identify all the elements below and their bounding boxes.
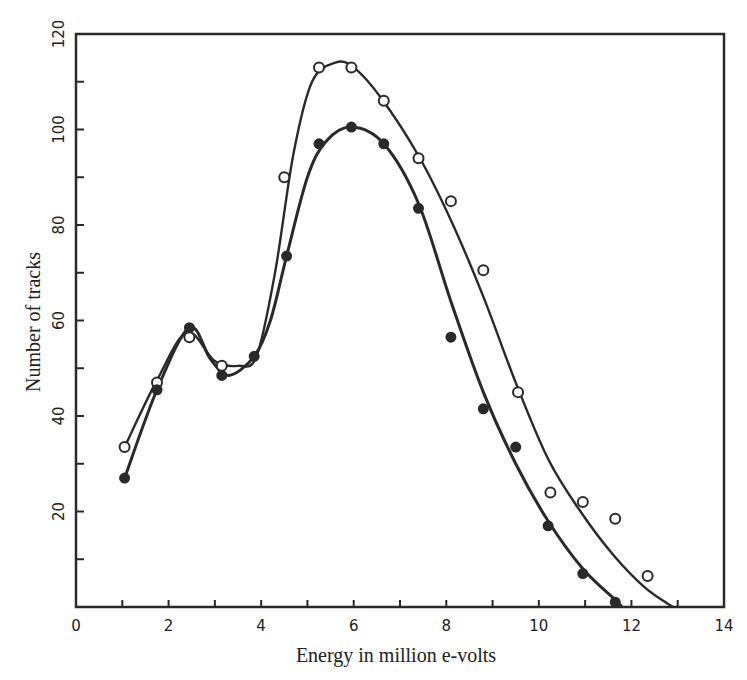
open-circle-point bbox=[610, 514, 620, 524]
y-tick-label: 60 bbox=[50, 311, 68, 330]
filled-circle-point bbox=[446, 333, 455, 342]
open-circle-point bbox=[346, 62, 356, 72]
filled-series-curve bbox=[125, 127, 623, 607]
open-circle-point bbox=[279, 172, 289, 182]
open-circle-point bbox=[184, 332, 194, 342]
x-tick-label: 12 bbox=[622, 617, 641, 635]
filled-circle-point bbox=[185, 323, 194, 332]
open-circle-point bbox=[578, 497, 588, 507]
x-tick-label: 8 bbox=[442, 617, 452, 635]
open-circle-point bbox=[545, 487, 555, 497]
x-tick-label: 0 bbox=[71, 617, 81, 635]
open-circle-point bbox=[414, 153, 424, 163]
open-circle-point bbox=[446, 196, 456, 206]
filled-circle-point bbox=[315, 139, 324, 148]
filled-circle-point bbox=[282, 252, 291, 261]
y-axis-ticks: 20406080100120 bbox=[50, 20, 84, 560]
open-series-curve bbox=[125, 61, 673, 607]
filled-circle-point bbox=[511, 443, 520, 452]
y-tick-label: 40 bbox=[50, 406, 68, 425]
filled-circle-point bbox=[347, 123, 356, 132]
open-circle-point bbox=[379, 96, 389, 106]
x-tick-label: 14 bbox=[714, 617, 733, 635]
filled-circle-point bbox=[379, 139, 388, 148]
x-tick-label: 6 bbox=[349, 617, 359, 635]
y-tick-label: 120 bbox=[50, 20, 68, 49]
chart: 02468101214 20406080100120 Energy in mil… bbox=[0, 0, 747, 680]
y-tick-label: 80 bbox=[50, 215, 68, 234]
x-tick-label: 10 bbox=[529, 617, 548, 635]
fitted-curves bbox=[125, 61, 673, 607]
filled-circle-point bbox=[479, 404, 488, 413]
open-circle-point bbox=[643, 571, 653, 581]
filled-circle-point bbox=[120, 474, 129, 483]
x-tick-label: 2 bbox=[164, 617, 174, 635]
filled-circle-point bbox=[414, 204, 423, 213]
filled-circle-point bbox=[250, 352, 259, 361]
y-tick-label: 20 bbox=[50, 502, 68, 521]
filled-circle-point bbox=[217, 371, 226, 380]
open-circle-point bbox=[314, 62, 324, 72]
x-tick-label: 4 bbox=[256, 617, 266, 635]
open-circle-point bbox=[513, 387, 523, 397]
filled-circle-point bbox=[153, 385, 162, 394]
filled-circle-point bbox=[544, 521, 553, 530]
open-circle-point bbox=[120, 442, 130, 452]
plot-frame bbox=[76, 34, 724, 607]
open-circle-point bbox=[478, 265, 488, 275]
x-axis-title: Energy in million e-volts bbox=[296, 644, 496, 667]
plot-border bbox=[76, 34, 724, 607]
y-axis-title: Number of tracks bbox=[22, 252, 44, 392]
y-tick-label: 100 bbox=[50, 115, 68, 144]
x-axis-ticks: 02468101214 bbox=[71, 600, 733, 635]
filled-circle-point bbox=[611, 598, 620, 607]
open-circle-point bbox=[217, 361, 227, 371]
filled-circle-point bbox=[578, 569, 587, 578]
